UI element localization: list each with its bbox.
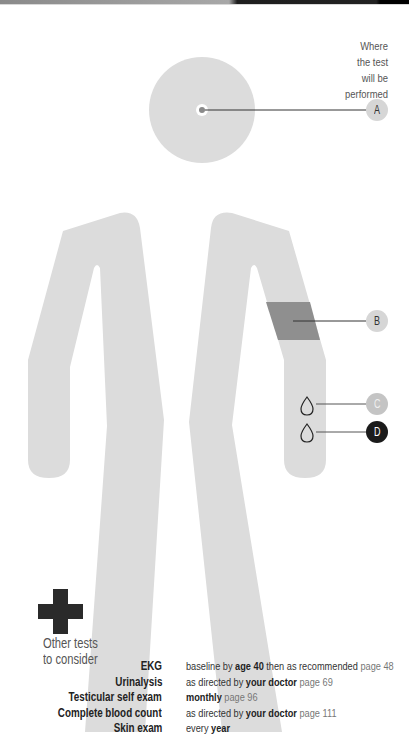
frequency-text: baseline by xyxy=(186,660,235,672)
where-label-line: will be xyxy=(340,70,388,86)
frequency-text: year xyxy=(211,722,230,734)
page-reference[interactable]: page 69 xyxy=(297,676,333,688)
test-frequency: monthly page 96 xyxy=(186,690,258,705)
marker-badge-b[interactable]: B xyxy=(366,310,388,332)
test-name: Urinalysis xyxy=(115,675,162,690)
other-tests-list: EKGbaseline by age 40 then as recommende… xyxy=(0,659,409,737)
right-body-shape xyxy=(189,213,326,732)
marker-label: B xyxy=(374,310,380,332)
test-row: EKGbaseline by age 40 then as recommende… xyxy=(0,659,409,675)
marker-badge-a[interactable]: A xyxy=(366,99,388,121)
marker-label: A xyxy=(374,99,380,121)
marker-badge-c[interactable]: C xyxy=(366,393,388,415)
page-reference[interactable]: page 48 xyxy=(360,660,393,672)
test-name: Testicular self exam xyxy=(69,690,162,705)
test-frequency: as directed by your doctor page 69 xyxy=(186,675,333,690)
frequency-text: as directed by xyxy=(186,707,246,719)
where-label-line: the test xyxy=(340,54,388,70)
frequency-text: your doctor xyxy=(246,707,297,719)
test-frequency: baseline by age 40 then as recommended p… xyxy=(186,659,394,674)
medical-cross-icon xyxy=(38,589,83,634)
test-name: Skin exam xyxy=(113,721,162,736)
where-label-line: Where xyxy=(340,38,388,54)
test-name: EKG xyxy=(141,659,162,674)
frequency-text: every xyxy=(186,722,211,734)
test-row: Skin examevery year xyxy=(0,721,409,737)
test-row: Complete blood countas directed by your … xyxy=(0,706,409,722)
page-reference[interactable]: page 111 xyxy=(297,707,337,719)
marker-badge-d[interactable]: D xyxy=(366,421,388,443)
heading-line: Other tests xyxy=(43,635,98,651)
marker-label: D xyxy=(374,421,381,443)
where-performed-label: Where the test will be performed xyxy=(340,38,388,102)
frequency-text: as directed by xyxy=(186,676,246,688)
marker-label: C xyxy=(374,393,381,415)
frequency-text: monthly xyxy=(186,691,222,703)
frequency-text: then as recommended xyxy=(264,660,361,672)
test-row: Testicular self exammonthly page 96 xyxy=(0,690,409,706)
test-name: Complete blood count xyxy=(58,706,162,721)
test-frequency: as directed by your doctor page 111 xyxy=(186,706,337,721)
frequency-text: age 40 xyxy=(235,660,264,672)
eye-marker-dot xyxy=(199,107,205,113)
test-frequency: every year xyxy=(186,721,230,736)
test-row: Urinalysisas directed by your doctor pag… xyxy=(0,675,409,691)
page-reference[interactable]: page 96 xyxy=(222,691,258,703)
frequency-text: your doctor xyxy=(246,676,297,688)
